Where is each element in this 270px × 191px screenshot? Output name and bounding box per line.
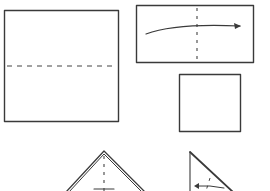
curved-arrow-icon xyxy=(146,25,240,34)
step-3-small-square xyxy=(180,75,241,132)
step-2-rectangle xyxy=(137,6,254,63)
triangle-outer-edge xyxy=(66,151,145,191)
step-5-right-triangle xyxy=(190,152,233,191)
step-4-triangle xyxy=(66,151,145,191)
small-square-outline xyxy=(180,75,241,132)
fold-arrowhead-icon xyxy=(194,183,199,189)
rectangle-outline xyxy=(137,6,254,63)
arrowhead-icon xyxy=(234,23,241,29)
fold-arrow-icon xyxy=(196,186,224,188)
triangle-inner-edge xyxy=(69,154,142,191)
step-1-square xyxy=(5,11,119,122)
origami-diagram xyxy=(0,0,270,191)
diagonal-fold-line xyxy=(206,178,210,191)
